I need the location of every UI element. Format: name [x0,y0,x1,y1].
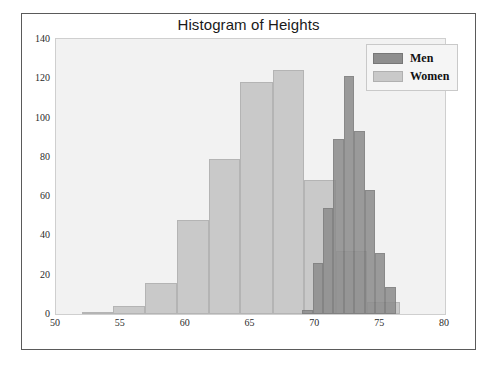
chart-legend: Men Women [366,44,458,91]
bar-women [240,82,272,314]
bar-men [313,263,323,314]
y-tick-label: 100 [6,111,50,122]
y-tick-label: 0 [6,308,50,319]
x-tick-label: 55 [115,317,125,328]
y-tick-label: 60 [6,190,50,201]
chart-title: Histogram of Heights [0,16,497,33]
legend-label-men: Men [410,51,433,66]
bar-women [273,70,304,314]
x-tick-label: 65 [245,317,255,328]
bar-women [82,312,113,314]
y-tick-label: 40 [6,229,50,240]
y-tick-label: 20 [6,268,50,279]
bar-women [177,220,209,314]
legend-swatch-women-icon [373,71,403,82]
x-tick-label: 70 [309,317,319,328]
bar-men [354,131,364,314]
legend-item-men: Men [373,49,449,67]
y-tick-label: 120 [6,72,50,83]
bar-men [333,139,343,314]
bar-men [323,208,333,314]
legend-item-women: Women [373,67,449,85]
x-tick-label: 75 [374,317,384,328]
legend-label-women: Women [410,69,449,84]
bar-women [145,283,176,314]
bar-men [365,190,375,314]
y-axis: 020406080100120140 [0,38,50,315]
bar-men [385,287,395,315]
bar-women [113,306,145,314]
bar-women [209,159,240,314]
bar-men [375,253,385,314]
bar-men [344,76,354,314]
x-tick-label: 60 [180,317,190,328]
x-tick-label: 80 [439,317,449,328]
y-tick-label: 140 [6,33,50,44]
x-axis: 50556065707580 [55,317,446,335]
x-tick-label: 50 [50,317,60,328]
bar-men [302,310,312,314]
legend-swatch-men-icon [373,53,403,64]
y-tick-label: 80 [6,150,50,161]
chart-page: Histogram of Heights 020406080100120140 … [0,0,497,366]
